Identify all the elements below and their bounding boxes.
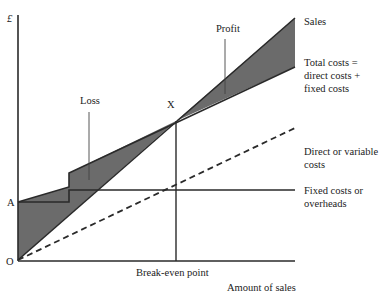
y-axis-label: £ [7,13,13,24]
origin-label: O [6,256,14,267]
profit-label: Profit [216,23,240,34]
total-costs-label: Total costs = direct costs + fixed costs [304,57,363,94]
loss-label: Loss [80,95,100,106]
sales-label: Sales [304,16,326,27]
fixed-cost-point-label: A [7,197,15,208]
break-even-diagram: £ A O X Loss Profit Sales Total costs = … [0,0,386,295]
sales-line [18,18,295,260]
fixed-costs-label: Fixed costs or overheads [304,185,366,209]
break-even-label: Break-even point [136,267,209,278]
break-even-marker: X [167,99,175,110]
direct-costs-label: Direct or variable costs [304,146,381,170]
x-axis-label: Amount of sales [227,282,296,293]
